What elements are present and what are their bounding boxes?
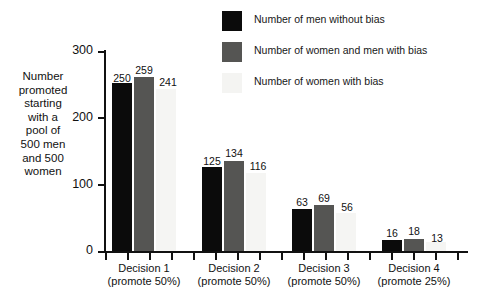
- bar-decision1-women-and-men-with-bias[interactable]: [134, 77, 154, 250]
- x-axis-label-decision-2-line1: Decision 2: [187, 262, 281, 275]
- bar-decision4-women-and-men-with-bias[interactable]: [404, 239, 424, 251]
- x-tick: [435, 252, 437, 260]
- x-axis-label-decision-3-line1: Decision 3: [277, 262, 371, 275]
- x-tick: [457, 252, 459, 260]
- x-tick: [325, 252, 327, 260]
- chart-page: Number of men without bias Number of wom…: [0, 0, 484, 296]
- value-label-decision2-women-with-bias: 116: [245, 160, 271, 172]
- x-axis-label-decision-4-line1: Decision 4: [367, 262, 461, 275]
- value-label-decision1-women-with-bias: 241: [155, 76, 181, 88]
- bar-decision3-men-without-bias[interactable]: [292, 209, 312, 251]
- x-axis-label-decision-1-line2: (promote 50%): [97, 275, 191, 288]
- bar-decision3-women-and-men-with-bias[interactable]: [314, 205, 334, 251]
- x-tick: [259, 252, 261, 260]
- bar-decision2-women-and-men-with-bias[interactable]: [224, 161, 244, 251]
- value-label-decision1-women-and-men-with-bias: 259: [131, 64, 157, 76]
- bar-decision1-women-with-bias[interactable]: [156, 89, 176, 250]
- x-tick: [391, 252, 393, 260]
- bar-decision4-men-without-bias[interactable]: [382, 240, 402, 251]
- value-label-decision4-men-without-bias: 16: [380, 227, 404, 239]
- x-axis-label-decision-4-line2: (promote 25%): [367, 275, 461, 288]
- x-axis-label-decision-2-line2: (promote 50%): [187, 275, 281, 288]
- value-label-decision4-women-with-bias: 13: [425, 232, 449, 244]
- bar-decision2-men-without-bias[interactable]: [202, 167, 222, 251]
- x-tick: [237, 252, 239, 260]
- x-tick: [215, 252, 217, 260]
- value-label-decision3-women-with-bias: 56: [335, 201, 359, 213]
- x-tick: [303, 252, 305, 260]
- x-axis-label-decision-1-line1: Decision 1: [97, 262, 191, 275]
- value-label-decision3-women-and-men-with-bias: 69: [312, 192, 336, 204]
- x-tick: [369, 252, 371, 260]
- x-tick: [171, 252, 173, 260]
- value-label-decision3-men-without-bias: 63: [290, 196, 314, 208]
- x-tick: [413, 252, 415, 260]
- x-tick: [105, 252, 107, 260]
- x-axis-label-decision-1: Decision 1 (promote 50%): [97, 262, 191, 287]
- bar-decision2-women-with-bias[interactable]: [246, 173, 266, 251]
- x-axis-label-decision-2: Decision 2 (promote 50%): [187, 262, 281, 287]
- plot-area: 300 200 100 0: [0, 0, 484, 296]
- x-axis-label-decision-3-line2: (promote 50%): [277, 275, 371, 288]
- x-axis-label-decision-4: Decision 4 (promote 25%): [367, 262, 461, 287]
- x-tick: [127, 252, 129, 260]
- bar-decision1-men-without-bias[interactable]: [112, 83, 132, 250]
- x-axis-label-decision-3: Decision 3 (promote 50%): [277, 262, 371, 287]
- bar-decision3-women-with-bias[interactable]: [336, 213, 356, 251]
- y-tick-0: [98, 251, 105, 253]
- value-label-decision4-women-and-men-with-bias: 18: [402, 225, 426, 237]
- value-label-decision2-women-and-men-with-bias: 134: [221, 147, 247, 159]
- x-tick: [149, 252, 151, 260]
- x-tick: [281, 252, 283, 260]
- x-tick: [193, 252, 195, 260]
- x-tick: [347, 252, 349, 260]
